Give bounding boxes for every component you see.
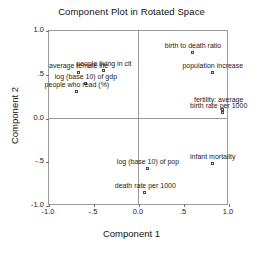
x-tick-label: 0.0 (125, 207, 151, 216)
y-tick-label: 1.0 (18, 25, 44, 34)
data-point-label: fertility: average (194, 96, 243, 104)
y-tick-label: -.5 (18, 156, 44, 165)
data-point-label: people living in cit (76, 60, 131, 68)
data-point-marker (102, 69, 105, 72)
data-point-label: people who read (%) (45, 81, 110, 89)
data-point-marker (146, 167, 149, 170)
data-point-marker (191, 51, 194, 54)
y-axis-title: Component 2 (9, 56, 20, 176)
data-point-label: birth rate per 1000 (190, 102, 247, 110)
data-point-label: death rate per 1000 (115, 182, 176, 190)
x-tick-label: .5 (170, 207, 196, 216)
data-point-marker (75, 90, 78, 93)
data-point-marker (221, 111, 224, 114)
data-point-label: population increase (182, 62, 243, 70)
chart-title: Component Plot in Rotated Space (0, 6, 263, 17)
data-point-marker (211, 71, 214, 74)
data-point-marker (77, 71, 80, 74)
data-point-marker (84, 82, 87, 85)
zero-line-horizontal (49, 118, 227, 119)
y-tick-label: -1.0 (18, 200, 44, 209)
y-tick-label: 0.0 (18, 113, 44, 122)
data-point-label: log (base 10) of pop (117, 158, 179, 166)
data-point-marker (143, 191, 146, 194)
data-point-label: log (base 10) of gdp (55, 73, 117, 81)
data-point-label: birth to death ratio (165, 42, 221, 50)
y-tick-mark (46, 119, 49, 120)
x-tick-label: 1.0 (215, 207, 241, 216)
y-tick-label: .5 (18, 69, 44, 78)
data-point-label: average female life (49, 62, 108, 70)
plot-area: birth to death ratiopopulation increasef… (48, 30, 228, 205)
data-point-marker (211, 162, 214, 165)
component-plot-figure: Component Plot in Rotated Space birth to… (0, 0, 263, 254)
data-point-label: infant mortality (190, 153, 236, 161)
x-tick-label: -.5 (80, 207, 106, 216)
y-tick-mark (46, 75, 49, 76)
x-axis-title: Component 1 (0, 228, 263, 239)
y-tick-mark (46, 162, 49, 163)
y-tick-mark (46, 31, 49, 32)
